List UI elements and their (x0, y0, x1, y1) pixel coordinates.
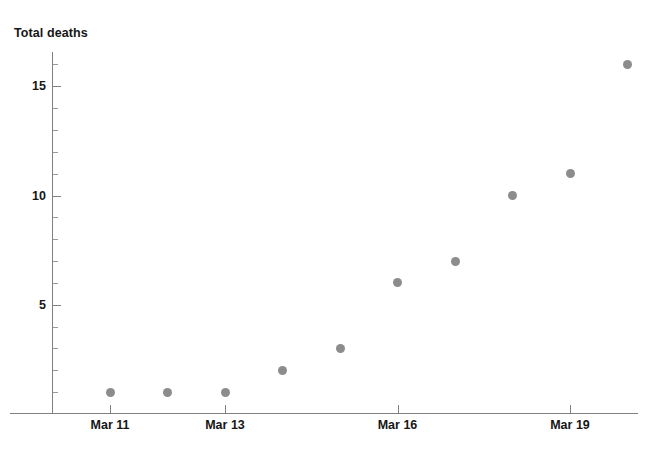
y-tick-major (53, 86, 61, 87)
y-tick-minor (53, 327, 58, 328)
x-axis-line (10, 413, 638, 414)
x-tick-major (398, 405, 399, 414)
y-tick-label: 10 (8, 190, 46, 202)
y-tick-label: 15 (8, 80, 46, 92)
data-point (336, 344, 345, 353)
data-point (451, 257, 460, 266)
y-tick-minor (53, 108, 58, 109)
data-point (106, 388, 115, 397)
y-tick-minor (53, 283, 58, 284)
y-tick-label-text: 10 (12, 190, 46, 203)
y-tick-label: 5 (8, 299, 46, 311)
scatter-chart: Total deaths 51015 Mar 11Mar 13Mar 16Mar… (0, 0, 654, 460)
y-tick-label-text: 5 (12, 299, 46, 312)
x-tick-major (110, 405, 111, 414)
y-tick-major (53, 196, 61, 197)
data-point (393, 278, 402, 287)
y-tick-minor (53, 261, 58, 262)
y-tick-label-text: 15 (12, 80, 46, 93)
x-tick-label: Mar 11 (65, 419, 155, 432)
y-tick-minor (53, 217, 58, 218)
y-tick-major (53, 305, 61, 306)
data-point (508, 191, 517, 200)
data-point (163, 388, 172, 397)
y-tick-minor (53, 130, 58, 131)
x-tick-label: Mar 16 (353, 419, 443, 432)
y-tick-minor (53, 392, 58, 393)
x-tick-label: Mar 13 (180, 419, 270, 432)
x-tick-major (570, 405, 571, 414)
x-tick-label: Mar 19 (525, 419, 615, 432)
y-tick-minor (53, 239, 58, 240)
y-tick-minor (53, 152, 58, 153)
plot-area: 51015 Mar 11Mar 13Mar 16Mar 19 (0, 0, 654, 460)
y-axis-line (52, 52, 53, 414)
data-point (221, 388, 230, 397)
data-point (278, 366, 287, 375)
y-tick-minor (53, 370, 58, 371)
x-tick-major (225, 405, 226, 414)
y-tick-minor (53, 174, 58, 175)
y-tick-minor (53, 64, 58, 65)
y-tick-minor (53, 348, 58, 349)
data-point (566, 169, 575, 178)
data-point (623, 60, 632, 69)
